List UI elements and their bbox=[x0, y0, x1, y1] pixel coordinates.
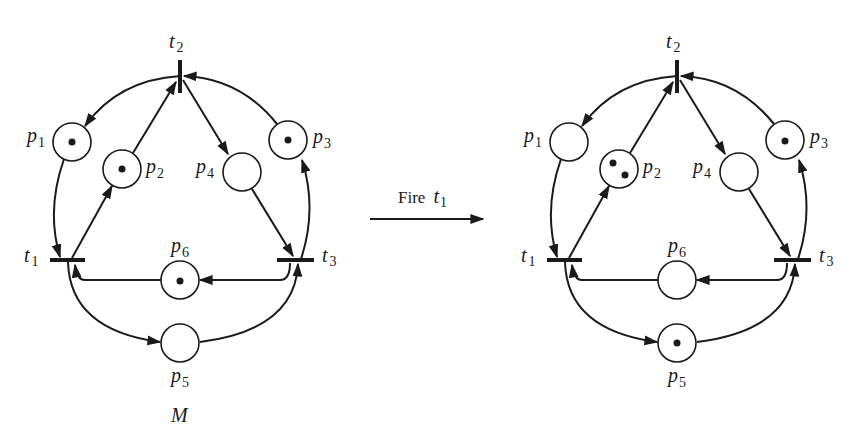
label-p2: p2 bbox=[144, 155, 164, 181]
label-t2: t2 bbox=[666, 30, 681, 55]
token bbox=[674, 340, 681, 347]
place-p6 bbox=[658, 261, 696, 299]
place-p4 bbox=[720, 153, 758, 191]
label-t2: t2 bbox=[169, 30, 184, 55]
arc-t1-p5 bbox=[565, 262, 657, 342]
arc-t3-p6 bbox=[200, 263, 290, 280]
label-p1: p1 bbox=[522, 124, 542, 150]
place-p3 bbox=[766, 121, 804, 159]
token bbox=[285, 137, 292, 144]
arc-t3-p3 bbox=[300, 160, 310, 262]
token bbox=[119, 166, 126, 173]
label-p4: p4 bbox=[691, 155, 711, 181]
fire-transition-arrow: Firet1 bbox=[370, 185, 483, 219]
arc-t2-p4 bbox=[183, 80, 228, 154]
arc-t1-p2 bbox=[72, 186, 112, 258]
arc-p1-t1 bbox=[551, 159, 561, 257]
token bbox=[610, 160, 617, 167]
place-p1 bbox=[53, 123, 91, 161]
arc-p6-t1 bbox=[572, 265, 658, 280]
arc-t2-p4 bbox=[680, 80, 725, 154]
arc-t3-p3 bbox=[797, 160, 807, 262]
label-p1: p1 bbox=[25, 124, 45, 150]
place-p4 bbox=[223, 153, 261, 191]
place-p3 bbox=[269, 121, 307, 159]
arc-p3-t2 bbox=[184, 76, 277, 124]
arc-t2-p1 bbox=[582, 76, 677, 126]
arc-p2-t2 bbox=[133, 82, 176, 153]
place-p5 bbox=[161, 324, 199, 362]
arc-p1-t1 bbox=[54, 159, 64, 257]
net-after-firing: t2 t1 t3 p1 p2 p3 p4 p6 p5 bbox=[521, 30, 834, 390]
label-p3: p3 bbox=[808, 125, 828, 151]
label-t3: t3 bbox=[322, 244, 337, 269]
token bbox=[69, 139, 76, 146]
arc-p5-t3 bbox=[200, 264, 298, 342]
arc-p2-t2 bbox=[630, 82, 673, 153]
place-p5 bbox=[658, 324, 696, 362]
token bbox=[782, 138, 789, 145]
label-t3: t3 bbox=[819, 244, 834, 269]
arc-t1-p5 bbox=[68, 262, 160, 342]
label-p5: p5 bbox=[169, 364, 189, 390]
arc-t1-p2 bbox=[569, 186, 609, 258]
label-p6: p6 bbox=[169, 234, 189, 260]
token bbox=[622, 172, 629, 179]
label-t1: t1 bbox=[521, 244, 536, 269]
fire-label: Firet1 bbox=[398, 185, 447, 210]
arc-p3-t2 bbox=[681, 76, 774, 124]
label-p4: p4 bbox=[194, 155, 214, 181]
arc-p4-t3 bbox=[252, 189, 293, 256]
place-p2 bbox=[103, 150, 141, 188]
arc-p4-t3 bbox=[749, 189, 790, 256]
label-t1: t1 bbox=[24, 244, 39, 269]
place-p2 bbox=[600, 150, 638, 188]
net-before-firing: t2 t1 t3 p1 p2 p3 p4 p6 p5 M bbox=[24, 30, 337, 426]
arc-p5-t3 bbox=[697, 264, 795, 342]
marking-caption: M bbox=[170, 404, 189, 426]
token bbox=[177, 278, 184, 285]
label-p5: p5 bbox=[666, 364, 686, 390]
arc-t2-p1 bbox=[85, 76, 180, 126]
label-p2: p2 bbox=[641, 155, 661, 181]
label-p6: p6 bbox=[666, 234, 686, 260]
arc-t3-p6 bbox=[697, 263, 787, 280]
arc-p6-t1 bbox=[75, 265, 161, 280]
petri-net-diagram: t2 t1 t3 p1 p2 p3 p4 p6 p5 M Firet1 bbox=[0, 0, 857, 445]
place-p6 bbox=[161, 261, 199, 299]
label-p3: p3 bbox=[311, 125, 331, 151]
place-p1 bbox=[550, 123, 588, 161]
